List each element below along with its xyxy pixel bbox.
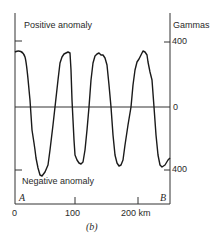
y-tick-label-400: 400 (172, 37, 187, 46)
y-tick-label-0: 0 (173, 103, 178, 112)
units-label: Gammas (173, 21, 210, 30)
x-tick-label-100: 100 (65, 209, 80, 218)
anomaly-curve (15, 51, 170, 176)
magnetic-anomaly-chart: Positive anomaly Gammas 400 0 400 Negati… (0, 0, 216, 235)
point-a-label: A (19, 193, 25, 203)
figure-caption: (b) (86, 222, 98, 232)
y-tick-label-neg400: 400 (172, 165, 187, 174)
point-b-label: B (160, 193, 166, 203)
x-tick-label-200: 200 km (121, 209, 151, 218)
negative-anomaly-label: Negative anomaly (22, 177, 94, 186)
x-tick-label-0: 0 (12, 209, 17, 218)
positive-anomaly-label: Positive anomaly (24, 21, 92, 30)
